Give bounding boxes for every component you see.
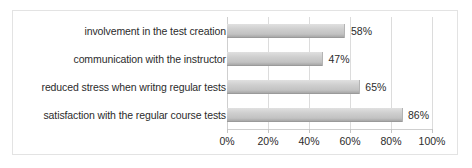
x-tick-100 bbox=[432, 129, 433, 133]
bar-row: communication with the instructor 47% bbox=[13, 45, 459, 73]
bar-involvement bbox=[227, 24, 345, 38]
bar-satisfaction bbox=[227, 108, 403, 122]
x-tick-20 bbox=[268, 129, 269, 133]
bar-communication bbox=[227, 52, 323, 66]
x-tick-label-40: 40% bbox=[298, 135, 319, 147]
x-tick-label-80: 80% bbox=[380, 135, 401, 147]
x-tick-40 bbox=[309, 129, 310, 133]
x-axis-line bbox=[227, 129, 432, 130]
plot-area: involvement in the test creation 58% com… bbox=[13, 11, 459, 156]
bar-row: satisfaction with the regular course tes… bbox=[13, 101, 459, 129]
bar-track: 58% bbox=[227, 24, 431, 38]
bar-track: 47% bbox=[227, 52, 431, 66]
category-label: communication with the instructor bbox=[73, 53, 226, 65]
bar-value-label: 86% bbox=[408, 109, 429, 121]
bar-track: 65% bbox=[227, 80, 431, 94]
category-label: satisfaction with the regular course tes… bbox=[43, 109, 226, 121]
bar-value-label: 47% bbox=[329, 53, 350, 65]
bar-rows: involvement in the test creation 58% com… bbox=[13, 17, 459, 129]
x-tick-label-0: 0% bbox=[219, 135, 234, 147]
category-label: reduced stress when writng regular tests bbox=[41, 81, 226, 93]
chart-frame: involvement in the test creation 58% com… bbox=[12, 10, 458, 155]
x-tick-60 bbox=[350, 129, 351, 133]
x-tick-label-60: 60% bbox=[339, 135, 360, 147]
x-tick-80 bbox=[391, 129, 392, 133]
x-tick-label-20: 20% bbox=[257, 135, 278, 147]
x-tick-label-100: 100% bbox=[419, 135, 446, 147]
category-label: involvement in the test creation bbox=[84, 25, 226, 37]
bar-value-label: 65% bbox=[365, 81, 386, 93]
bar-track: 86% bbox=[227, 108, 431, 122]
bar-reduced-stress bbox=[227, 80, 360, 94]
bar-row: involvement in the test creation 58% bbox=[13, 17, 459, 45]
x-tick-0 bbox=[227, 129, 228, 133]
bar-value-label: 58% bbox=[351, 25, 372, 37]
bar-row: reduced stress when writng regular tests… bbox=[13, 73, 459, 101]
